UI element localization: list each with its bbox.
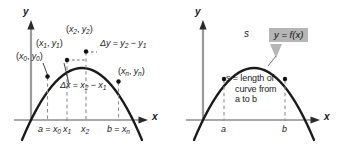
tick-label-a: a	[221, 124, 226, 134]
leader-p0	[43, 63, 48, 75]
callout-tail	[270, 44, 282, 58]
y-axis-arrowhead	[27, 20, 34, 30]
y-axis-label: y	[23, 6, 28, 17]
left-panel-partition-diagram: y x (x0, y0) (x1, y1) (x2, y2) (xn, yn) …	[0, 0, 173, 161]
curve-equation-text: y = f(x)	[274, 29, 303, 40]
label-point-x2: (x2, y2)	[66, 24, 93, 34]
point-x0	[45, 74, 49, 78]
x-axis-arrowhead	[139, 117, 149, 124]
tick-label-x1: x1	[63, 124, 71, 134]
callout-leader-line	[268, 56, 276, 66]
arc-length-annotation: s = length of curve from a to b	[226, 73, 277, 105]
label-delta-x: Δx = x2 − x1	[60, 80, 106, 90]
arc-length-figure: y x (x0, y0) (x1, y1) (x2, y2) (xn, yn) …	[0, 0, 345, 161]
y-axis-label: y	[195, 6, 200, 17]
point-xn	[116, 79, 120, 83]
label-point-x0: (x0, y0)	[16, 51, 43, 61]
arc-length-symbol: s	[244, 28, 249, 39]
point-x1	[65, 58, 69, 62]
point-b	[283, 77, 287, 81]
annotation-line-1: s = length of	[226, 73, 274, 83]
x-axis-label: x	[152, 111, 157, 122]
right-panel-arc-length-diagram: y x s y = f(x) s = length of curve from …	[172, 0, 345, 161]
label-point-x1: (x1, y1)	[36, 38, 63, 48]
tick-label-b: b = xn	[107, 124, 130, 134]
annotation-line-3: a to b	[226, 94, 277, 105]
annotation-line-2: curve from	[226, 84, 277, 95]
x-axis-label: x	[324, 111, 329, 122]
x-axis-arrowhead	[311, 117, 321, 124]
tick-label-b: b	[282, 124, 287, 134]
y-axis-arrowhead	[199, 20, 206, 30]
tick-label-a: a = x0	[38, 124, 61, 134]
tick-label-x2: x2	[81, 124, 89, 134]
label-delta-y: Δy = y2 − y1	[100, 38, 146, 48]
curve-equation-callout: y = f(x)	[269, 28, 308, 42]
point-x2	[84, 49, 88, 53]
label-point-xn: (xn, yn)	[118, 66, 145, 76]
